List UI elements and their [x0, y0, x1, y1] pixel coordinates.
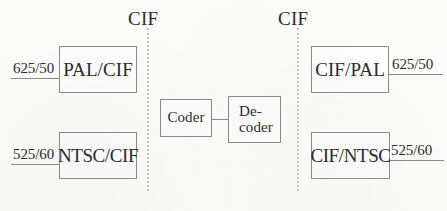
output-lead-ntsc [389, 160, 444, 161]
block-pal-to-cif-label: PAL/CIF [63, 60, 133, 80]
output-lead-pal [389, 74, 443, 75]
block-coder-label: Coder [167, 110, 204, 126]
cif-label-left: CIF [128, 8, 158, 30]
connector-coder-decoder [211, 119, 229, 120]
block-ntsc-to-cif: NTSC/CIF [59, 132, 137, 179]
cif-label-right: CIF [278, 8, 308, 30]
block-coder: Coder [160, 99, 212, 137]
block-cif-to-pal-label: CIF/PAL [315, 60, 385, 80]
cif-boundary-line-left [147, 28, 149, 191]
input-lead-pal [11, 78, 60, 79]
rate-label-pal-output: 625/50 [392, 56, 433, 73]
block-ntsc-to-cif-label: NTSC/CIF [58, 146, 138, 166]
block-pal-to-cif: PAL/CIF [59, 46, 137, 93]
cif-boundary-line-right [297, 28, 299, 191]
block-cif-to-pal: CIF/PAL [311, 46, 389, 93]
block-decoder-label: De- coder [236, 104, 273, 135]
rate-label-ntsc-output: 525/60 [391, 142, 432, 159]
block-decoder: De- coder [228, 96, 281, 143]
block-cif-to-ntsc-label: CIF/NTSC [310, 146, 390, 166]
input-lead-ntsc [11, 164, 60, 165]
rate-label-ntsc-input: 525/60 [13, 146, 54, 163]
cif-conversion-diagram: CIF CIF 625/50 525/60 625/50 525/60 PAL/… [0, 0, 447, 211]
paper-texture [0, 0, 447, 211]
block-cif-to-ntsc: CIF/NTSC [311, 132, 390, 179]
rate-label-pal-input: 625/50 [13, 60, 54, 77]
